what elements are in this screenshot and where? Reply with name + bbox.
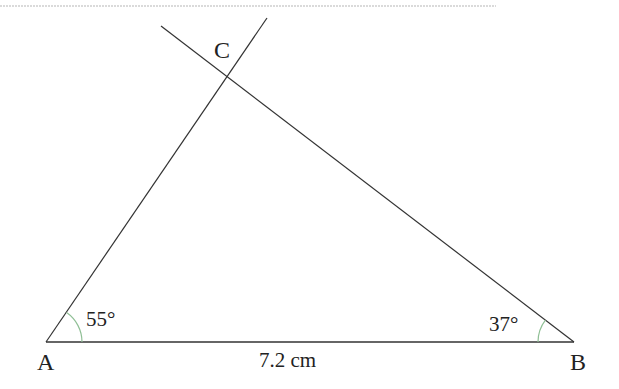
ray-from-a [46,18,267,342]
side-ab-length-label: 7.2 cm [259,348,316,372]
angle-arc-b [538,320,545,342]
triangle-diagram: C A B 55° 37° 7.2 cm [0,0,619,389]
angle-label-b: 37° [489,312,518,336]
angle-label-a: 55° [86,307,115,331]
vertex-label-a: A [37,349,55,375]
vertex-label-c: C [214,37,230,63]
angle-arc-a [67,313,82,343]
vertex-label-b: B [570,349,586,375]
ray-from-b [161,26,574,342]
